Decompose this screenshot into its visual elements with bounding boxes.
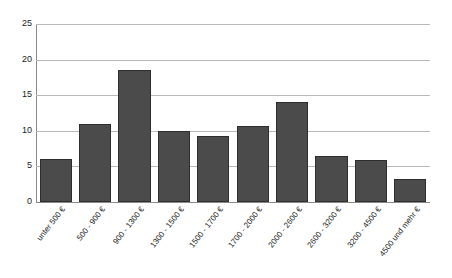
bar xyxy=(355,160,387,202)
bar xyxy=(197,136,229,202)
y-tick-label-10: 10 xyxy=(2,126,32,135)
x-tick-label: 2000 - 2600 € xyxy=(266,205,303,249)
x-tick-label: 500 - 900 € xyxy=(75,205,107,242)
bar xyxy=(394,179,426,202)
bar xyxy=(158,131,190,202)
bar xyxy=(276,102,308,202)
y-tick-label-5: 5 xyxy=(2,161,32,170)
x-tick-label: 1700 - 2000 € xyxy=(227,205,264,249)
x-tick-label: 3200 - 4500 € xyxy=(345,205,382,249)
x-tick-label: 900 - 1300 € xyxy=(112,205,147,246)
x-tick-label: 1300 - 1500 € xyxy=(148,205,185,249)
y-axis-tick-labels: 0510152025 xyxy=(0,0,32,278)
bar xyxy=(79,124,111,202)
x-tick-label: 4500 und mehr € xyxy=(378,205,422,258)
bars-layer xyxy=(36,24,430,202)
bar xyxy=(237,126,269,202)
y-tick-label-0: 0 xyxy=(2,197,32,206)
bar xyxy=(40,159,72,202)
x-tick-label: 1500 - 1700 € xyxy=(188,205,225,249)
bar-chart: 0510152025 unter 500 €500 - 900 €900 - 1… xyxy=(0,0,452,278)
bar xyxy=(315,156,347,202)
y-tick-label-25: 25 xyxy=(2,19,32,28)
x-tick-label: unter 500 € xyxy=(35,205,67,242)
plot-area xyxy=(36,24,430,202)
bar xyxy=(118,70,150,202)
y-tick-label-15: 15 xyxy=(2,90,32,99)
x-tick-label: 2600 - 3200 € xyxy=(306,205,343,249)
y-tick-label-20: 20 xyxy=(2,55,32,64)
x-axis-tick-labels: unter 500 €500 - 900 €900 - 1300 €1300 -… xyxy=(36,203,430,278)
